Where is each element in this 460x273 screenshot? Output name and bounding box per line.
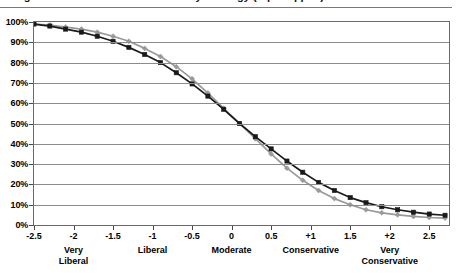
series-line: [34, 24, 445, 215]
data-point-marker: [285, 159, 289, 163]
y-axis-tick-label: 30%: [11, 159, 28, 169]
category-label-line: Liberal: [59, 256, 89, 267]
x-axis-tick-label: -2.5: [26, 231, 42, 241]
data-point-marker: [253, 135, 257, 139]
chart-container: Figure 1. Cumulative distribution by ide…: [0, 0, 460, 273]
gridline: [34, 42, 449, 43]
x-axis-tick-label: -1.5: [105, 231, 121, 241]
x-axis-tick: [390, 226, 391, 230]
y-axis-tick-label: 60%: [11, 98, 28, 108]
data-point-marker: [222, 107, 226, 111]
x-axis-category-label: Conservative: [282, 245, 339, 256]
x-axis-category-label: VeryConservative: [361, 245, 418, 267]
category-label-line: Conservative: [282, 245, 339, 256]
data-point-marker: [332, 188, 336, 192]
gridline: [34, 164, 449, 165]
title-divider: [0, 7, 452, 8]
x-axis-tick: [271, 226, 272, 230]
category-label-line: Liberal: [138, 245, 168, 256]
data-point-marker: [206, 94, 210, 98]
y-axis-tick-label: 50%: [11, 119, 28, 129]
x-axis-tick: [113, 226, 114, 230]
gridline: [34, 205, 449, 206]
gridline: [34, 124, 449, 125]
data-point-marker: [395, 212, 400, 217]
gridline: [34, 103, 449, 104]
x-axis-tick-label: 1.5: [344, 231, 357, 241]
data-point-marker: [411, 210, 415, 214]
x-axis-tick-label: -2: [70, 231, 78, 241]
y-axis-tick-label: 40%: [11, 139, 28, 149]
x-axis-tick-label: 2.5: [423, 231, 436, 241]
data-point-marker: [34, 22, 36, 26]
data-point-marker: [301, 170, 305, 174]
plot-area: [33, 21, 450, 226]
data-point-marker: [396, 208, 400, 212]
data-point-marker: [127, 45, 131, 49]
data-point-marker: [411, 214, 416, 219]
x-axis-tick: [74, 226, 75, 230]
data-point-marker: [143, 52, 147, 56]
x-axis-tick: [232, 226, 233, 230]
data-point-marker: [48, 24, 52, 28]
x-axis-tick-label: +2: [385, 231, 395, 241]
data-point-marker: [364, 207, 369, 212]
data-point-marker: [269, 147, 273, 151]
data-point-marker: [64, 27, 68, 31]
y-axis-tick-label: 20%: [11, 179, 28, 189]
y-axis-tick-label: 90%: [11, 37, 28, 47]
y-axis-tick-label: 100%: [6, 17, 28, 27]
gridline: [34, 144, 449, 145]
gridline: [34, 63, 449, 64]
x-axis-tick-label: -0.5: [184, 231, 200, 241]
data-point-marker: [111, 34, 116, 39]
gridline: [34, 184, 449, 185]
x-axis-category-label: Liberal: [138, 245, 168, 256]
gridline: [34, 83, 449, 84]
x-axis-tick-label: 0.5: [265, 231, 278, 241]
data-point-marker: [79, 30, 83, 34]
x-axis-tick: [311, 226, 312, 230]
data-point-marker: [95, 34, 99, 38]
data-point-marker: [379, 210, 384, 215]
chart-title: Figure 1. Cumulative distribution by ide…: [14, 0, 324, 2]
x-axis-tick-label: +1: [306, 231, 316, 241]
x-axis-tick: [153, 226, 154, 230]
x-axis-tick: [34, 226, 35, 230]
x-axis-tick-label: 0: [229, 231, 234, 241]
x-axis-category-label: VeryLiberal: [59, 245, 89, 267]
x-axis-tick: [192, 226, 193, 230]
x-axis-tick: [350, 226, 351, 230]
y-axis-tick-label: 70%: [11, 78, 28, 88]
data-point-marker: [443, 213, 447, 217]
data-point-marker: [427, 212, 431, 216]
x-axis-tick-label: -1: [149, 231, 157, 241]
category-label-line: Very: [361, 245, 418, 256]
y-axis-tick-label: 80%: [11, 58, 28, 68]
category-label-line: Very: [59, 245, 89, 256]
category-label-line: Moderate: [212, 245, 252, 256]
data-point-marker: [348, 196, 352, 200]
x-axis-tick: [429, 226, 430, 230]
x-axis-category-label: Moderate: [212, 245, 252, 256]
y-axis-tick-label: 0%: [15, 220, 28, 230]
category-label-line: Conservative: [361, 256, 418, 267]
data-point-marker: [174, 71, 178, 75]
y-axis-tick-label: 10%: [11, 200, 28, 210]
